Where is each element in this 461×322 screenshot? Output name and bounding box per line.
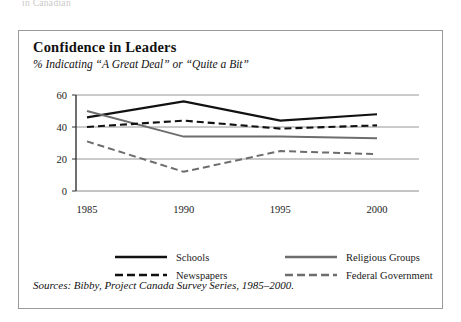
series-line-federal-government <box>87 141 377 171</box>
series-line-schools <box>87 101 377 120</box>
legend-label-religious-groups: Religious Groups <box>346 252 420 263</box>
chart-series-lines <box>87 101 377 171</box>
svg-text:1990: 1990 <box>173 204 194 215</box>
svg-text:2000: 2000 <box>367 204 388 215</box>
legend-graphics: SchoolsReligious GroupsNewspapersFederal… <box>115 247 435 283</box>
page-text-fragment: in Canadian <box>22 0 71 8</box>
svg-text:40: 40 <box>57 122 68 133</box>
figure-subtitle: % Indicating “A Great Deal” or “Quite a … <box>33 58 249 70</box>
chart-x-tick-labels: 1985199019952000 <box>77 204 388 215</box>
line-chart: 0204060 1985199019952000 <box>19 81 442 241</box>
chart-plot-area: 0204060 1985199019952000 <box>19 81 442 241</box>
svg-text:1995: 1995 <box>270 204 291 215</box>
svg-text:60: 60 <box>57 90 68 101</box>
svg-text:1985: 1985 <box>77 204 98 215</box>
svg-text:0: 0 <box>62 186 67 197</box>
chart-y-tick-labels: 0204060 <box>57 90 68 197</box>
chart-gridlines <box>76 95 419 191</box>
svg-text:20: 20 <box>57 154 68 165</box>
figure-container: Confidence in Leaders % Indicating “A Gr… <box>18 30 443 309</box>
legend-label-federal-government: Federal Government <box>346 270 433 281</box>
legend-label-schools: Schools <box>176 252 209 263</box>
source-note: Sources: Bibby, Project Canada Survey Se… <box>33 279 294 291</box>
chart-legend: SchoolsReligious GroupsNewspapersFederal… <box>115 247 435 283</box>
figure-title: Confidence in Leaders <box>33 39 177 56</box>
